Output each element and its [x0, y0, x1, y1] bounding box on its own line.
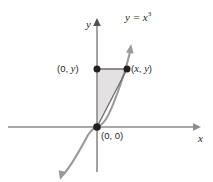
curve-top-arrowhead-icon [126, 44, 134, 54]
curve-equation-exponent: 3 [148, 10, 152, 18]
point-0y-label: (0, y) [57, 64, 79, 75]
curve-equation-text: y = x [125, 11, 148, 23]
curve-equation-label: y = x3 [125, 12, 151, 23]
y-axis-label: y [86, 19, 91, 30]
cubic-function-figure: (0, y) (x, y) (0, 0) y x y = x3 [0, 0, 213, 182]
point-0y-marker [94, 66, 101, 73]
point-origin-marker [93, 123, 101, 131]
y-axis-arrowhead-icon [93, 18, 101, 26]
point-0y-label-close: ) [75, 63, 78, 74]
point-xy-label: (x, y) [131, 64, 152, 75]
x-axis-label: x [198, 133, 203, 144]
point-0y-label-open: (0, [57, 63, 71, 74]
x-axis-arrowhead-icon [193, 123, 201, 131]
figure-canvas [0, 0, 213, 182]
point-origin-label: (0, 0) [101, 131, 123, 141]
point-xy-marker [124, 66, 131, 73]
point-xy-label-close: ) [149, 63, 152, 74]
